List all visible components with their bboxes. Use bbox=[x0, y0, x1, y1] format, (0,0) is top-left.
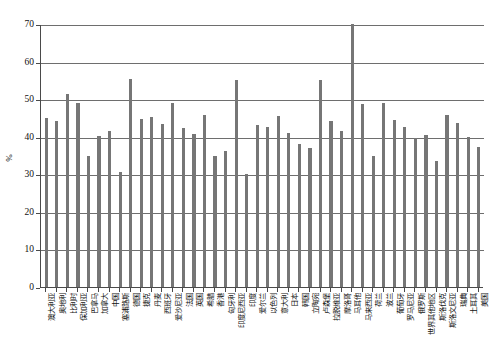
x-tick-label: 英国 bbox=[196, 293, 204, 357]
bar bbox=[203, 115, 206, 287]
x-tick-label: 日本 bbox=[291, 293, 299, 357]
x-tick-label: 印度尼西亚 bbox=[238, 293, 246, 357]
bar bbox=[108, 131, 111, 287]
x-tick-mark bbox=[362, 288, 363, 292]
y-tick-mark bbox=[36, 100, 40, 101]
bar bbox=[435, 161, 438, 287]
bar bbox=[192, 134, 195, 287]
bar bbox=[119, 172, 122, 287]
x-tick-label: 俄罗斯 bbox=[418, 293, 426, 357]
bar bbox=[393, 120, 396, 287]
x-tick-mark bbox=[298, 288, 299, 292]
bar bbox=[224, 151, 227, 287]
bar bbox=[97, 136, 100, 287]
x-tick-label: 保加利亚 bbox=[80, 293, 88, 357]
x-tick-label: 拉脱维亚 bbox=[333, 293, 341, 357]
x-tick-mark bbox=[436, 288, 437, 292]
x-tick-label: 韩国 bbox=[302, 293, 310, 357]
bar bbox=[76, 103, 79, 287]
bar-series bbox=[41, 24, 484, 287]
x-tick-label: 爱尔兰 bbox=[259, 293, 267, 357]
plot-area bbox=[40, 25, 483, 288]
x-tick-label: 香港 bbox=[217, 293, 225, 357]
x-tick-mark bbox=[193, 288, 194, 292]
y-tick-mark bbox=[36, 175, 40, 176]
x-tick-label: 匈牙利 bbox=[228, 293, 236, 357]
x-tick-label: 巴拿马 bbox=[91, 293, 99, 357]
x-tick-mark bbox=[130, 288, 131, 292]
x-tick-mark bbox=[56, 288, 57, 292]
x-tick-mark bbox=[151, 288, 152, 292]
x-tick-mark bbox=[256, 288, 257, 292]
x-tick-label: 马来西亚 bbox=[365, 293, 373, 357]
bar bbox=[361, 104, 364, 287]
y-tick-label: 50 bbox=[10, 95, 34, 105]
x-tick-label: 法国 bbox=[186, 293, 194, 357]
x-tick-mark bbox=[98, 288, 99, 292]
x-tick-mark bbox=[446, 288, 447, 292]
x-tick-label: 马耳他 bbox=[354, 293, 362, 357]
bar bbox=[161, 124, 164, 287]
bar bbox=[298, 144, 301, 287]
y-tick-mark bbox=[36, 138, 40, 139]
x-tick-label: 立陶宛 bbox=[312, 293, 320, 357]
x-tick-label: 摩洛哥 bbox=[344, 293, 352, 357]
x-tick-label: 澳大利亚 bbox=[48, 293, 56, 357]
x-tick-mark bbox=[225, 288, 226, 292]
x-tick-label: 以色列 bbox=[270, 293, 278, 357]
bar bbox=[256, 125, 259, 287]
bar bbox=[445, 115, 448, 287]
y-tick-label: 70 bbox=[10, 20, 34, 30]
x-tick-mark bbox=[182, 288, 183, 292]
x-tick-mark bbox=[246, 288, 247, 292]
bar bbox=[414, 138, 417, 287]
x-tick-mark bbox=[330, 288, 331, 292]
bar bbox=[55, 121, 58, 287]
x-tick-label: 荷兰 bbox=[375, 293, 383, 357]
bar bbox=[382, 103, 385, 287]
bar bbox=[266, 127, 269, 287]
x-tick-label: 西班牙 bbox=[164, 293, 172, 357]
y-tick-label: 20 bbox=[10, 208, 34, 218]
y-axis-label: % bbox=[0, 151, 19, 165]
x-tick-mark bbox=[172, 288, 173, 292]
bar bbox=[287, 133, 290, 287]
x-tick-label: 比利时 bbox=[70, 293, 78, 357]
x-tick-label: 波兰 bbox=[386, 293, 394, 357]
x-tick-label: 世界其他地区 bbox=[428, 293, 436, 357]
y-tick-label: 0 bbox=[10, 283, 34, 293]
x-tick-mark bbox=[341, 288, 342, 292]
x-tick-label: 葡萄牙 bbox=[397, 293, 405, 357]
x-tick-label: 美国 bbox=[481, 293, 489, 357]
x-tick-mark bbox=[351, 288, 352, 292]
bar bbox=[235, 80, 238, 287]
x-tick-mark bbox=[467, 288, 468, 292]
x-tick-mark bbox=[45, 288, 46, 292]
y-tick-label: 60 bbox=[10, 58, 34, 68]
x-tick-mark bbox=[414, 288, 415, 292]
bar bbox=[319, 80, 322, 287]
x-tick-mark bbox=[235, 288, 236, 292]
y-tick-mark bbox=[36, 25, 40, 26]
bar bbox=[340, 131, 343, 287]
x-tick-label: 斯洛文尼亚 bbox=[449, 293, 457, 357]
x-tick-label: 希腊 bbox=[207, 293, 215, 357]
x-tick-mark bbox=[404, 288, 405, 292]
y-tick-mark bbox=[36, 213, 40, 214]
x-tick-label: 捷克 bbox=[143, 293, 151, 357]
y-tick-label: 30 bbox=[10, 170, 34, 180]
x-tick-label: 斯洛伐克 bbox=[439, 293, 447, 357]
y-tick-mark bbox=[36, 63, 40, 64]
x-tick-mark bbox=[457, 288, 458, 292]
bar bbox=[245, 174, 248, 287]
bar bbox=[467, 137, 470, 287]
bar bbox=[351, 24, 354, 287]
x-tick-mark bbox=[393, 288, 394, 292]
y-tick-label: 10 bbox=[10, 245, 34, 255]
bar bbox=[129, 79, 132, 287]
x-tick-mark bbox=[140, 288, 141, 292]
bar bbox=[150, 117, 153, 287]
bar bbox=[456, 123, 459, 287]
x-tick-label: 瑞典 bbox=[460, 293, 468, 357]
x-tick-mark bbox=[161, 288, 162, 292]
